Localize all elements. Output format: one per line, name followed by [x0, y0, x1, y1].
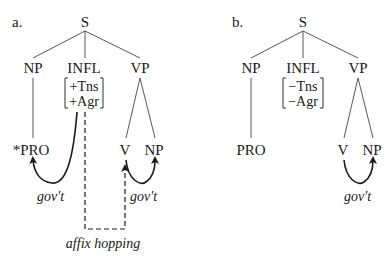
tree-a-edge-vp-np	[140, 78, 155, 138]
tree-a-node-np: NP	[23, 60, 42, 76]
tree-b-edge-s-vp	[303, 31, 358, 58]
tree-b: b. S NP INFL VP −Tns −Agr PRO V NP gov't	[232, 14, 382, 204]
tree-a-node-v: V	[120, 142, 131, 158]
tree-a-govt-label-left: gov't	[37, 189, 65, 204]
tree-b-node-vp: VP	[348, 60, 367, 76]
tree-b-node-object-np: NP	[362, 142, 381, 158]
tree-b-feature-tns: −Tns	[289, 79, 318, 94]
tree-a-node-pro: *PRO	[13, 142, 50, 158]
tree-a-bracket-right	[100, 78, 103, 108]
tree-b-node-np: NP	[241, 60, 260, 76]
tree-a-affix-hopping-path	[85, 112, 125, 229]
tree-a-govt-label-right: gov't	[130, 189, 158, 204]
tree-a-node-vp: VP	[130, 60, 149, 76]
tree-a-edge-s-np	[33, 31, 85, 58]
tree-a: a. S NP INFL VP +Tns +Agr *PRO V NP gov'…	[12, 14, 164, 251]
tree-a-govt-arc-v-np	[126, 160, 155, 183]
tree-b-bracket-left	[283, 78, 286, 108]
tree-a-node-infl: INFL	[67, 60, 100, 76]
tree-b-govt-arc-v-np	[344, 160, 373, 183]
tree-b-bracket-right	[320, 78, 323, 108]
tree-b-label: b.	[232, 14, 243, 30]
tree-b-edge-s-np	[251, 31, 303, 58]
tree-b-node-pro: PRO	[236, 142, 265, 158]
tree-a-label: a.	[12, 14, 22, 30]
syntax-tree-diagrams: a. S NP INFL VP +Tns +Agr *PRO V NP gov'…	[0, 0, 391, 262]
tree-b-edge-vp-np	[358, 78, 373, 138]
tree-a-edge-vp-v	[126, 78, 140, 138]
tree-a-node-object-np: NP	[144, 142, 163, 158]
tree-a-affix-hopping-label: affix hopping	[66, 236, 140, 251]
tree-b-govt-label: gov't	[344, 189, 372, 204]
tree-a-feature-agr: +Agr	[69, 94, 99, 109]
tree-b-node-v: V	[338, 142, 349, 158]
tree-b-node-infl: INFL	[286, 60, 319, 76]
tree-a-feature-tns: +Tns	[70, 79, 99, 94]
tree-a-bracket-left	[65, 78, 68, 108]
tree-b-edge-vp-v	[344, 78, 358, 138]
tree-a-node-s: S	[81, 14, 89, 30]
tree-a-edge-s-vp	[85, 31, 140, 58]
tree-b-feature-agr: −Agr	[288, 94, 318, 109]
tree-b-node-s: S	[299, 14, 307, 30]
